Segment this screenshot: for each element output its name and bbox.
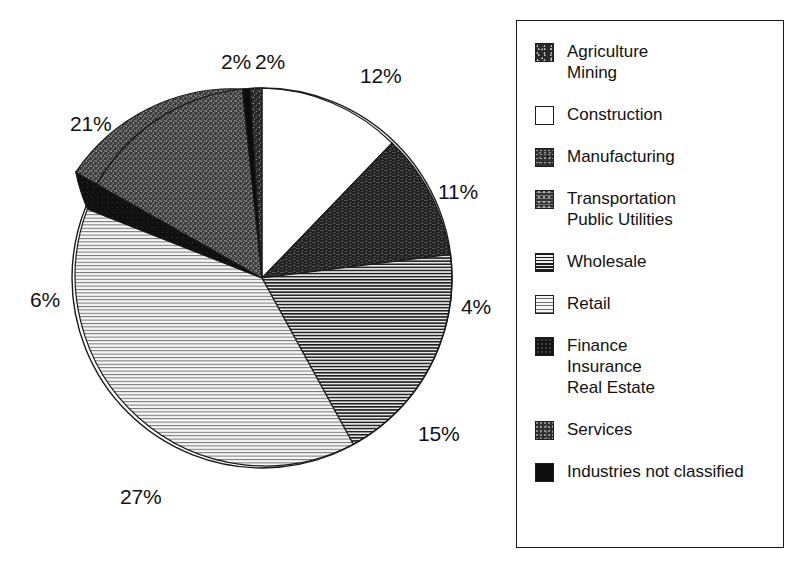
legend-item-agriculture-mining[interactable]: Agriculture Mining xyxy=(535,41,775,83)
pie-slices xyxy=(72,88,452,468)
legend-item-transportation-public-utilities[interactable]: Transportation Public Utilities xyxy=(535,188,775,230)
chart-page: 2% 2% 12% 11% 4% 15% 27% 6% 21% Agricult… xyxy=(0,0,804,574)
pie-label-industries-not-classified: 2% xyxy=(255,50,285,74)
legend-label-transportation-public-utilities: Transportation Public Utilities xyxy=(567,188,676,230)
pie-chart: 2% 2% 12% 11% 4% 15% 27% 6% 21% xyxy=(0,0,500,574)
legend-swatch-agriculture-mining-icon xyxy=(535,43,554,62)
pie-label-wholesale: 15% xyxy=(418,422,459,446)
legend-label-retail: Retail xyxy=(567,293,610,314)
pie-label-services: 21% xyxy=(70,112,111,136)
legend-item-wholesale[interactable]: Wholesale xyxy=(535,251,775,272)
legend-label-services: Services xyxy=(567,419,632,440)
legend-swatch-retail-icon xyxy=(535,295,554,314)
pie-label-manufacturing: 11% xyxy=(438,180,478,204)
pie-label-finance: 6% xyxy=(30,288,60,312)
legend-swatch-construction-icon xyxy=(535,106,554,125)
legend-swatch-industries-not-classified-icon xyxy=(535,463,554,482)
pie-label-agriculture-mining: 2% xyxy=(221,50,251,74)
legend-swatch-manufacturing-icon xyxy=(535,148,554,167)
legend-swatch-wholesale-icon xyxy=(535,253,554,272)
legend-swatch-transportation-icon xyxy=(535,190,554,209)
legend-label-finance-insurance-real-estate: Finance Insurance Real Estate xyxy=(567,335,655,398)
legend-label-agriculture-mining: Agriculture Mining xyxy=(567,41,648,83)
legend-item-industries-not-classified[interactable]: Industries not classified xyxy=(535,461,775,482)
legend-item-manufacturing[interactable]: Manufacturing xyxy=(535,146,775,167)
pie-label-construction: 12% xyxy=(360,64,401,88)
pie-chart-svg xyxy=(0,0,500,574)
legend-list: Agriculture Mining Construction Manufact… xyxy=(535,41,775,482)
pie-label-transportation: 4% xyxy=(461,295,491,319)
legend-swatch-services-icon xyxy=(535,421,554,440)
legend-label-industries-not-classified: Industries not classified xyxy=(567,461,744,482)
legend-label-wholesale: Wholesale xyxy=(567,251,646,272)
legend-label-manufacturing: Manufacturing xyxy=(567,146,675,167)
legend-item-services[interactable]: Services xyxy=(535,419,775,440)
legend-item-retail[interactable]: Retail xyxy=(535,293,775,314)
legend-label-construction: Construction xyxy=(567,104,662,125)
legend-item-construction[interactable]: Construction xyxy=(535,104,775,125)
legend-swatch-finance-icon xyxy=(535,337,554,356)
legend-item-finance-insurance-real-estate[interactable]: Finance Insurance Real Estate xyxy=(535,335,775,398)
pie-label-retail: 27% xyxy=(120,485,161,509)
legend-box: Agriculture Mining Construction Manufact… xyxy=(516,20,784,548)
